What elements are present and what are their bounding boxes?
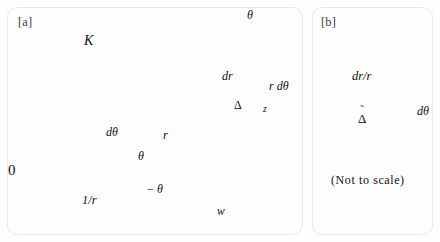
label-delta: Δ	[234, 99, 242, 111]
label-r: r	[163, 129, 168, 142]
label-dtheta-a: dθ	[106, 126, 118, 138]
label-curve-K: K	[84, 34, 93, 48]
delta-tilde-accent: ˜	[360, 104, 364, 115]
label-z-point: z	[263, 105, 267, 115]
panel-b-label: [b]	[321, 15, 336, 30]
label-dr-over-r: dr/r	[352, 70, 371, 83]
figure-root: [a] [b] K θ dr r dθ Δ z 0 dθ r θ − θ 1/r…	[0, 0, 440, 242]
label-r-dtheta: r dθ	[269, 80, 289, 92]
panel-a-label: [a]	[18, 15, 32, 30]
label-origin: 0	[8, 163, 16, 178]
label-delta-tilde: ˜ Δ	[358, 112, 366, 125]
label-theta-top: θ	[247, 9, 253, 21]
label-theta: θ	[138, 150, 144, 162]
panel-b	[312, 7, 433, 235]
label-dtheta-b: dθ	[417, 105, 429, 117]
label-w-point: w	[217, 206, 225, 218]
not-to-scale-note: (Not to scale)	[331, 173, 405, 188]
label-one-over-r: 1/r	[82, 194, 97, 207]
panel-a	[7, 7, 303, 235]
label-dr: dr	[222, 70, 233, 82]
label-minus-theta: − θ	[146, 183, 163, 195]
